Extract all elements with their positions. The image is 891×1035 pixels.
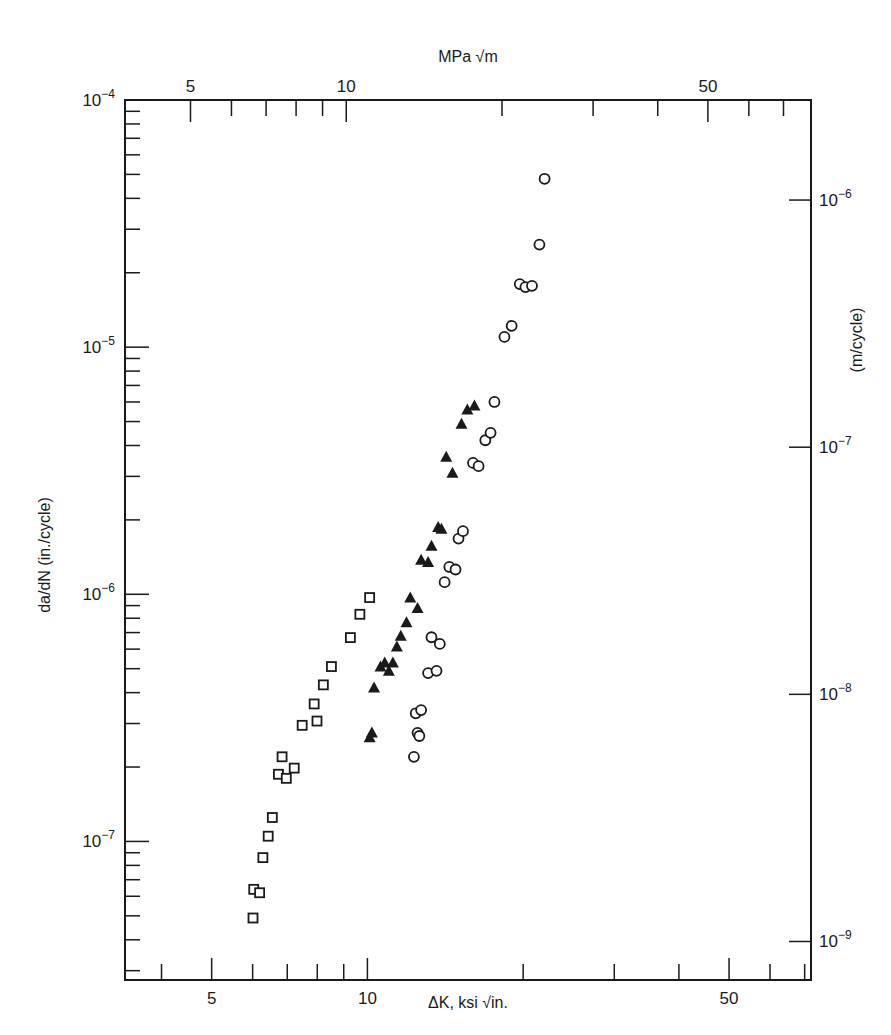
x-axis-top-label: MPa √m [438,48,497,65]
square-marker [355,610,364,619]
triangle-marker [395,630,407,641]
square-marker [365,593,374,602]
y-tick-label-left: 10−7 [82,828,115,851]
y-tick-label-left: 10−4 [82,87,115,110]
y-tick-label-right: 10−8 [819,681,852,704]
x-tick-label-top: 10 [337,77,356,96]
y-tick-label-right: 10−7 [819,434,852,457]
square-marker [264,832,273,841]
axis-tick-labels: 10−410−510−610−710−610−710−810−951050510… [82,77,852,1008]
square-marker [346,633,355,642]
circle-marker [432,666,442,676]
circle-marker [486,428,496,438]
square-marker [255,888,264,897]
triangle-marker [425,540,437,551]
circle-marker [435,639,445,649]
square-marker [327,662,336,671]
x-axis-label: ΔK, ksi √in. [428,994,508,1011]
circle-marker [414,731,424,741]
y-tick-label-left: 10−6 [82,581,115,604]
plot-frame [125,100,811,980]
square-marker [282,774,291,783]
x-tick-label-bottom: 5 [207,989,216,1008]
circle-marker [540,174,550,184]
square-marker [278,752,287,761]
circle-marker [458,526,468,536]
square-marker [312,717,321,726]
triangle-marker [387,656,399,667]
circle-marker [416,705,426,715]
square-marker [310,699,319,708]
circle-marker [409,752,419,762]
triangle-marker [368,681,380,692]
crack-growth-chart: 10−410−510−610−710−610−710−810−951050510… [0,0,891,1035]
triangle-marker [446,467,458,478]
triangle-marker [468,400,480,411]
plot-border [125,100,811,980]
square-marker [298,721,307,730]
x-tick-label-bottom: 10 [358,989,377,1008]
circle-marker [507,321,517,331]
data-points [249,174,550,923]
square-marker [268,813,277,822]
triangle-marker [391,640,403,651]
square-marker [290,764,299,773]
triangle-marker [456,418,468,429]
triangle-marker [404,592,416,603]
square-marker [249,914,258,923]
y-axis-left-label: da/dN (in./cycle) [36,497,53,613]
triangle-marker [440,451,452,462]
circle-marker [534,240,544,250]
triangle-marker [412,602,424,613]
circle-marker [499,332,509,342]
circle-marker [451,564,461,574]
y-tick-label-right: 10−6 [819,187,852,210]
triangle-marker [366,726,378,737]
circle-marker [489,397,499,407]
y-tick-label-right: 10−9 [819,928,852,951]
circle-marker [440,577,450,587]
y-axis-right-label: (m/cycle) [848,308,865,373]
square-marker [319,680,328,689]
circle-marker [474,461,484,471]
square-marker [258,853,267,862]
y-tick-label-left: 10−5 [82,334,115,357]
triangle-marker [401,616,413,627]
axis-ticks [125,100,811,980]
x-tick-label-top: 50 [698,77,717,96]
x-tick-label-bottom: 50 [720,989,739,1008]
circle-marker [527,281,537,291]
x-tick-label-top: 5 [186,77,195,96]
